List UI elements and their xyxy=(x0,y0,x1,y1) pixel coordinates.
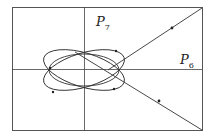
arrow-marker xyxy=(52,91,54,93)
arrow-marker xyxy=(171,27,174,30)
label-p7: P7 xyxy=(96,14,110,32)
arrow-marker xyxy=(115,50,117,52)
arrow-marker xyxy=(113,88,115,90)
arrow-marker xyxy=(158,100,161,103)
arrow-marker xyxy=(49,67,51,69)
label-p6: P6 xyxy=(180,52,194,70)
